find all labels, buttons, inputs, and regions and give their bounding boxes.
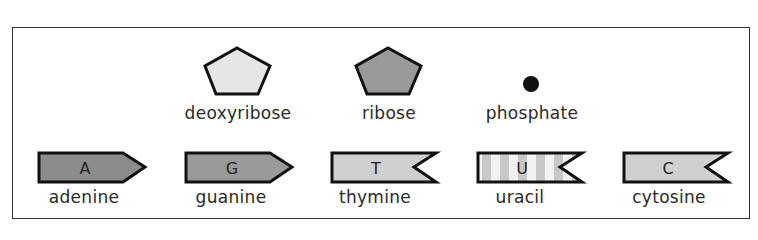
guanine-base-icon: G — [184, 151, 296, 185]
svg-text:A: A — [80, 159, 91, 178]
deoxyribose-pentagon-icon — [203, 46, 273, 96]
adenine-base-icon: A — [37, 151, 149, 185]
svg-text:C: C — [662, 159, 673, 178]
svg-text:U: U — [516, 159, 528, 178]
adenine-label: adenine — [49, 187, 120, 207]
thymine-base-icon: T — [330, 151, 442, 185]
phosphate-label: phosphate — [486, 103, 579, 123]
deoxyribose-label: deoxyribose — [185, 103, 292, 123]
uracil-label: uracil — [496, 187, 545, 207]
ribose-label: ribose — [362, 103, 416, 123]
svg-text:T: T — [370, 159, 381, 178]
guanine-label: guanine — [196, 187, 267, 207]
ribose-pentagon-icon — [354, 46, 424, 96]
svg-text:G: G — [226, 159, 238, 178]
phosphate-dot-icon — [522, 75, 540, 93]
uracil-base-icon: U — [476, 151, 588, 185]
cytosine-base-icon: C — [622, 151, 734, 185]
thymine-label: thymine — [339, 187, 411, 207]
cytosine-label: cytosine — [632, 187, 706, 207]
